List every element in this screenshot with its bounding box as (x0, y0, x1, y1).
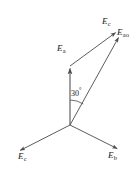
label-eb-base: E (108, 150, 114, 160)
label-ec-resultant-base: E (102, 16, 108, 26)
angle-value: 30 (71, 89, 79, 98)
angle-unit: ° (79, 87, 81, 93)
label-ec-resultant-sub: c (108, 20, 111, 27)
label-ec-base: E (18, 151, 24, 161)
vector-ec-resultant (70, 33, 116, 66)
label-ea: Ea (57, 44, 65, 53)
label-eao-sub: ao (123, 31, 129, 38)
label-ea-base: E (57, 43, 63, 53)
vector-eb (70, 125, 117, 149)
angle-label-30: 30° (71, 87, 81, 98)
label-eb-sub: b (114, 154, 117, 161)
label-ec: Ec (18, 152, 26, 161)
label-ea-sub: a (63, 47, 66, 54)
label-ec-sub: c (24, 155, 27, 162)
label-ec-resultant: Ec (102, 17, 110, 26)
vector-eao (70, 38, 119, 126)
label-eb: Eb (108, 151, 117, 160)
label-eao-base: E (117, 27, 123, 37)
label-eao: Eao (117, 28, 129, 37)
vector-ec (20, 125, 70, 150)
phasor-diagram-figure: Ea Ec Eao Ec Eb 30° (0, 0, 138, 174)
angle-arc-30deg (70, 100, 83, 104)
